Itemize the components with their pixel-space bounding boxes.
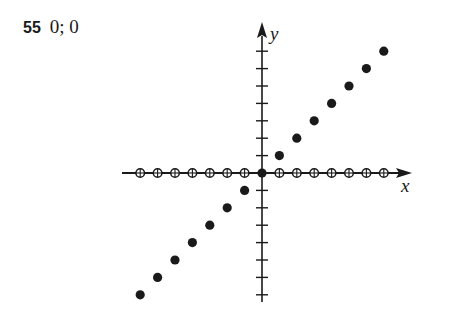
filled-dot-icon — [327, 99, 336, 108]
filled-dot-icon — [344, 81, 353, 90]
filled-dot-icon — [292, 134, 301, 143]
filled-dot-icon — [310, 116, 319, 125]
y-axis-arrow-icon — [257, 22, 267, 38]
filled-dot-icon — [257, 168, 266, 177]
filled-dot-icon — [188, 238, 197, 247]
y-axis-label: y — [268, 23, 279, 44]
filled-dot-icon — [362, 64, 371, 73]
filled-dot-icon — [240, 186, 249, 195]
filled-dot-icon — [223, 203, 232, 212]
filled-dot-icon — [379, 47, 388, 56]
filled-dot-icon — [136, 290, 145, 299]
scatter-plot: x y — [0, 0, 451, 318]
filled-dot-icon — [275, 151, 284, 160]
filled-dot-icon — [170, 255, 179, 264]
x-axis-label: x — [400, 175, 410, 196]
filled-dot-icon — [153, 273, 162, 282]
filled-dot-icon — [205, 221, 214, 230]
